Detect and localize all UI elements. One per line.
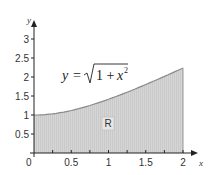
svg-text:1 +: 1 + — [96, 68, 115, 83]
region-label: R — [105, 118, 112, 129]
equation-label: y = 1 + x 2 — [60, 64, 128, 83]
x-axis-label: x — [198, 158, 203, 168]
svg-text:y: y — [60, 68, 69, 83]
svg-text:2: 2 — [124, 66, 128, 75]
y-ticks: 0.511.522.53 — [15, 34, 34, 140]
y-axis-arrow-icon — [31, 20, 37, 27]
x-tick-label: 0 — [26, 157, 32, 168]
x-tick-label: 2 — [180, 157, 186, 168]
x-tick-label: 1 — [106, 157, 112, 168]
x-tick-label: 1.5 — [139, 157, 153, 168]
y-tick-label: 2.5 — [15, 53, 29, 64]
y-tick-label: 0.5 — [15, 129, 29, 140]
svg-text:x: x — [116, 68, 124, 83]
y-tick-label: 2 — [23, 72, 29, 83]
area-chart: y x 00.511.52 0.511.522.53 y = 1 + x 2 R — [0, 0, 212, 175]
y-axis-label: y — [26, 15, 31, 25]
svg-text:=: = — [73, 68, 81, 83]
x-axis-arrow-icon — [191, 150, 198, 156]
y-tick-label: 3 — [23, 34, 29, 45]
y-tick-label: 1 — [23, 110, 29, 121]
y-tick-label: 1.5 — [15, 91, 29, 102]
x-tick-label: 0.5 — [64, 157, 78, 168]
